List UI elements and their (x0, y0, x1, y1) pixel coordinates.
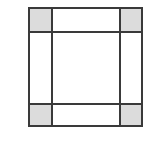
cell-top-center (52, 7, 120, 32)
nine-patch-grid-figure (28, 7, 143, 127)
cell-bottom-right (120, 104, 143, 127)
grid-svg (28, 7, 143, 127)
cell-middle-left (28, 32, 52, 104)
figure-canvas (0, 0, 149, 141)
cell-middle-center (52, 32, 120, 104)
cell-middle-right (120, 32, 143, 104)
cell-top-right (120, 7, 143, 32)
cell-top-left (28, 7, 52, 32)
cell-bottom-left (28, 104, 52, 127)
cell-bottom-center (52, 104, 120, 127)
